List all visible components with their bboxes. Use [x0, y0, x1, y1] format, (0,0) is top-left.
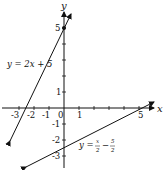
svg-text:5: 5	[111, 138, 115, 144]
x-tick-label: -2	[27, 110, 35, 120]
coordinate-graph: y x -3 -2 -1 0 1 5 5 1 -1 -2 -3 y = 2x +…	[0, 0, 165, 170]
svg-text:x: x	[96, 138, 100, 144]
x-tick-label: -3	[11, 110, 19, 120]
line-y-2x-plus-5	[10, 14, 71, 141]
x-tick-label: 1	[77, 110, 82, 120]
line-1-label: y = 2x + 5	[6, 59, 52, 69]
svg-text:2: 2	[95, 147, 100, 153]
y-axis-label: y	[60, 0, 67, 11]
y-tick-label: -1	[52, 119, 60, 129]
x-tick-label: -1	[42, 110, 50, 120]
x-axis-label: x	[157, 103, 163, 114]
point-0-5	[62, 26, 66, 30]
y-tick-label: 1	[56, 87, 61, 97]
svg-text:−: −	[102, 140, 109, 150]
y-tick-label: -3	[52, 151, 60, 161]
svg-text:2: 2	[110, 147, 115, 153]
y-tick-label: -2	[52, 135, 60, 145]
y-tick-label: 5	[55, 23, 60, 33]
line-2-label: y = x 2 − 5 2	[78, 138, 115, 153]
svg-text:y =: y =	[78, 140, 94, 150]
x-tick-label: 5	[138, 110, 143, 120]
